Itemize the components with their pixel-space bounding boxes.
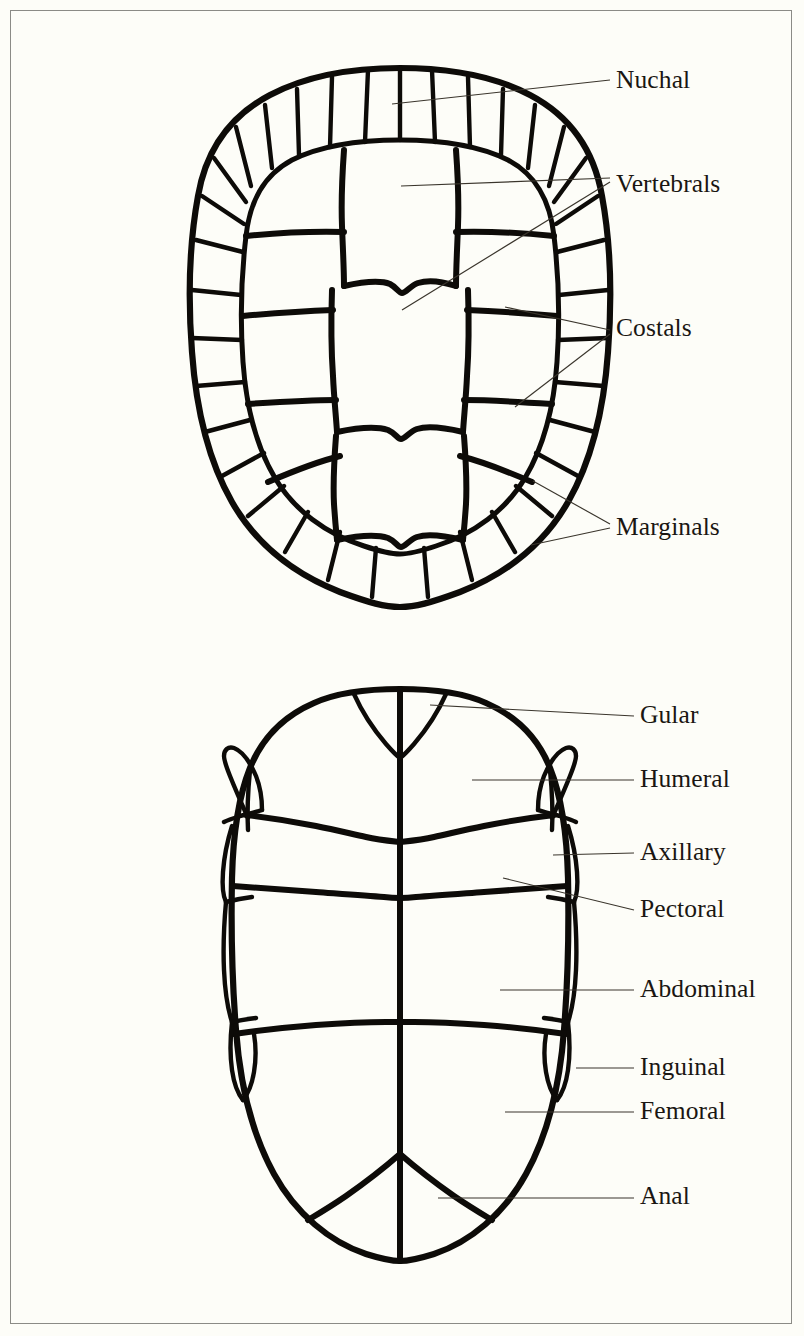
marginal-scute-seams <box>192 68 608 597</box>
costal-seam <box>460 456 532 482</box>
bridge-scutes-right <box>538 747 577 1100</box>
marginal-seam <box>196 382 245 386</box>
label-pectoral: Pectoral <box>640 894 724 923</box>
costal-seam <box>464 400 552 404</box>
marginal-seam <box>468 77 470 147</box>
marginal-seam <box>285 512 308 552</box>
figure-page: NuchalVertebralsCostalsMarginalsGularHum… <box>0 0 804 1336</box>
anal-seam <box>308 1154 400 1220</box>
bridge-inner-seam-right <box>550 770 552 830</box>
label-femoral: Femoral <box>640 1096 726 1125</box>
marginal-seam <box>265 105 272 168</box>
label-abdominal: Abdominal <box>640 974 756 1003</box>
marginal-seam <box>196 240 243 252</box>
label-inguinal: Inguinal <box>640 1052 726 1081</box>
marginal-seam <box>556 196 598 224</box>
costal-seam <box>248 400 336 404</box>
label-layer: NuchalVertebralsCostalsMarginalsGularHum… <box>616 65 756 1210</box>
marginal-seam <box>558 338 608 340</box>
vertebral-seam <box>342 150 344 286</box>
marginal-seam <box>557 240 604 252</box>
marginal-seam <box>248 486 284 516</box>
vertebral-seam <box>463 436 466 540</box>
marginal-seam <box>424 548 428 597</box>
marginal-seam <box>222 453 264 476</box>
label-nuchal: Nuchal <box>616 65 690 94</box>
plastron-ventral-view <box>223 689 578 1261</box>
label-marginals: Marginals <box>616 512 720 541</box>
marginal-seam <box>330 77 332 147</box>
leader-costals-2 <box>515 334 610 407</box>
label-axillary: Axillary <box>640 837 726 866</box>
label-anal: Anal <box>640 1181 690 1210</box>
marginal-seam <box>555 382 604 386</box>
marginal-seam <box>528 105 535 168</box>
costal-scute-seams <box>243 232 557 482</box>
label-gular: Gular <box>640 700 699 729</box>
carapace-dorsal-view <box>190 68 610 607</box>
leader-marginals-1 <box>533 481 610 524</box>
carapace-outer-outline <box>190 68 610 607</box>
marginal-seam <box>372 548 376 597</box>
marginal-seam <box>432 70 435 142</box>
vertebral-seam <box>334 436 337 540</box>
marginal-seam <box>202 196 244 224</box>
costal-seam <box>456 232 554 236</box>
marginal-seam <box>297 89 299 155</box>
vertebral-seam <box>456 150 458 286</box>
marginal-seam <box>550 420 595 432</box>
costal-seam <box>243 310 333 316</box>
marginal-seam <box>549 127 564 186</box>
leader-gular <box>430 705 634 716</box>
label-costals: Costals <box>616 313 692 342</box>
costal-seam <box>268 456 340 482</box>
marginal-seam <box>536 453 578 476</box>
leader-vertebrals-1 <box>401 178 610 186</box>
vertebral-seam <box>337 427 463 439</box>
marginal-seam <box>492 512 515 552</box>
marginal-seam <box>501 89 503 155</box>
bridge-scutes-left <box>223 747 262 1100</box>
marginal-seam <box>192 338 242 340</box>
gular-seam <box>354 694 400 758</box>
vertebral-scute-seams <box>331 150 468 547</box>
anal-seam <box>400 1154 492 1220</box>
marginal-seam <box>559 290 608 295</box>
carapace-inner-ring <box>241 140 558 554</box>
label-humeral: Humeral <box>640 764 730 793</box>
marginal-seam <box>516 486 552 516</box>
costal-seam <box>246 232 344 236</box>
marginal-seam <box>236 127 251 186</box>
marginal-seam <box>205 420 250 432</box>
gular-seam <box>400 694 446 758</box>
marginal-seam <box>214 158 246 202</box>
label-vertebrals: Vertebrals <box>616 169 720 198</box>
bridge-inner-seam-left <box>248 770 250 830</box>
marginal-seam <box>192 290 241 295</box>
turtle-shell-diagram: NuchalVertebralsCostalsMarginalsGularHum… <box>0 0 804 1336</box>
marginal-seam <box>365 70 368 142</box>
